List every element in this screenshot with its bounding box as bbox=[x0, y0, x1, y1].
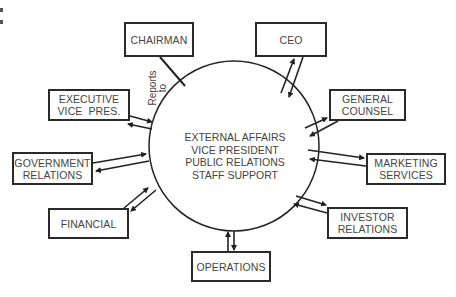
node-marketing-services: MARKETING SERVICES bbox=[366, 153, 446, 185]
node-label: CEO bbox=[279, 34, 302, 46]
node-label: RELATIONS bbox=[338, 223, 398, 235]
center-line: PUBLIC RELATIONS bbox=[170, 156, 300, 169]
reports-to-label: Reports to bbox=[148, 68, 168, 108]
node-label: CHAIRMAN bbox=[131, 34, 188, 46]
node-label: COUNSEL bbox=[342, 105, 393, 117]
node-label: VICE PRES. bbox=[58, 105, 121, 117]
node-chairman: CHAIRMAN bbox=[124, 22, 194, 57]
node-general-counsel: GENERAL COUNSEL bbox=[329, 89, 406, 121]
node-ceo: CEO bbox=[255, 22, 327, 57]
node-investor-relations: INVESTOR RELATIONS bbox=[327, 207, 408, 239]
center-line: STAFF SUPPORT bbox=[170, 169, 300, 182]
node-executive-vice-pres: EXECUTIVE VICE PRES. bbox=[48, 89, 130, 121]
node-label: OPERATIONS bbox=[196, 261, 265, 273]
node-label: INVESTOR bbox=[340, 211, 394, 223]
node-government-relations: GOVERNMENT RELATIONS bbox=[12, 152, 93, 185]
node-label: MARKETING bbox=[374, 157, 437, 169]
center-line: EXTERNAL AFFAIRS bbox=[170, 131, 300, 144]
node-label: EXECUTIVE bbox=[59, 93, 119, 105]
node-label: RELATIONS bbox=[23, 169, 83, 181]
center-node-label: EXTERNAL AFFAIRS VICE PRESIDENT PUBLIC R… bbox=[170, 131, 300, 181]
node-financial: FINANCIAL bbox=[48, 208, 129, 239]
node-label: SERVICES bbox=[379, 169, 433, 181]
node-label: GENERAL bbox=[342, 93, 393, 105]
center-line: VICE PRESIDENT bbox=[170, 144, 300, 157]
org-diagram: CHAIRMAN CEO GENERAL COUNSEL EXECUTIVE V… bbox=[0, 0, 456, 297]
node-label: FINANCIAL bbox=[61, 218, 117, 230]
node-operations: OPERATIONS bbox=[191, 251, 271, 282]
to-text: to bbox=[158, 68, 168, 108]
node-label: GOVERNMENT bbox=[14, 157, 90, 169]
